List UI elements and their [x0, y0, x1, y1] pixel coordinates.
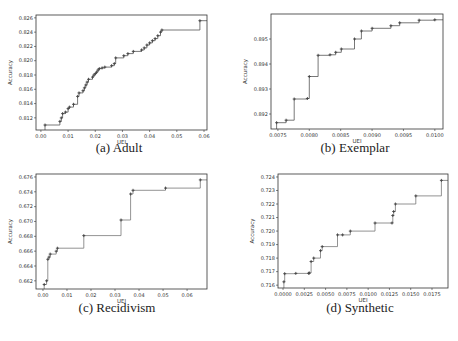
data-marker — [336, 233, 339, 236]
y-tick-label: 0.717 — [261, 268, 275, 274]
data-marker — [341, 233, 344, 236]
y-tick-label: 0.719 — [261, 241, 275, 247]
y-tick-label: 0.716 — [261, 282, 275, 288]
data-marker — [321, 245, 324, 248]
y-tick-label: 0.724 — [261, 174, 275, 180]
data-marker — [283, 272, 286, 275]
x-tick-label: 0.0175 — [423, 291, 441, 297]
data-marker — [349, 230, 352, 233]
y-tick-label: 0.721 — [261, 214, 275, 220]
data-marker — [414, 194, 417, 197]
y-tick-label: 0.718 — [261, 255, 275, 261]
x-tick-label: 0.0075 — [338, 291, 356, 297]
data-marker — [294, 272, 297, 275]
y-tick-label: 0.723 — [261, 187, 275, 193]
y-tick-label: 0.720 — [261, 228, 275, 234]
x-tick-label: 0.0050 — [317, 291, 335, 297]
plot-synthetic: 0.00000.00250.00500.00750.01000.01250.01… — [0, 0, 458, 320]
x-tick-label: 0.0025 — [296, 291, 314, 297]
data-marker — [440, 179, 443, 182]
data-marker — [310, 260, 313, 263]
x-tick-label: 0.0125 — [381, 291, 399, 297]
y-axis-label: Accuracy — [249, 218, 256, 244]
y-tick-label: 0.722 — [261, 201, 275, 207]
panel-synthetic: 0.00000.00250.00500.00750.01000.01250.01… — [0, 0, 458, 341]
data-marker — [392, 210, 395, 213]
data-marker — [374, 222, 377, 225]
x-tick-label: 0.0150 — [402, 291, 420, 297]
data-marker — [394, 203, 397, 206]
caption-synthetic: (d) Synthetic — [300, 300, 420, 316]
data-marker — [312, 257, 315, 260]
x-tick-label: 0.0000 — [274, 291, 292, 297]
data-marker — [319, 249, 322, 252]
